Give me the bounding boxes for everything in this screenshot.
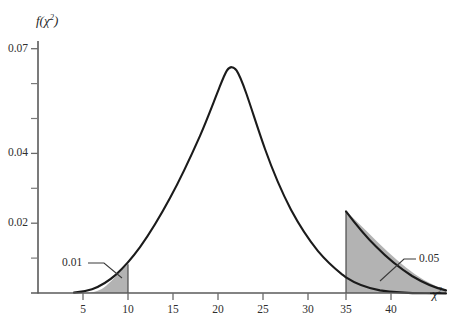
x-tick-label-15: 15 [167,304,179,316]
x-axis-title: χ2 [432,286,442,300]
x-tick-label-30: 30 [302,304,314,316]
y-axis-title-exponent: 2 [50,12,54,22]
chi-square-distribution-plot [0,0,460,326]
x-tick-label-10: 10 [122,304,134,316]
y-axis-title: f(χ2) [36,13,58,27]
y-tick-label-0.04: 0.04 [4,148,28,160]
chart-figure: 0.02 0.04 0.07 5 10 15 20 25 30 35 40 f(… [0,0,460,326]
x-tick-label-20: 20 [212,304,224,316]
x-tick-label-35: 35 [340,304,352,316]
x-tick-label-40: 40 [385,304,397,316]
y-tick-label-0.02: 0.02 [4,217,28,229]
upper-tail-area-label: 0.05 [419,253,439,265]
x-tick-label-25: 25 [257,304,269,316]
y-tick-label-0.07: 0.07 [4,43,28,55]
x-tick-label-5: 5 [80,304,86,316]
lower-tail-area-label: 0.01 [62,257,82,269]
x-axis-title-exponent: 2 [438,285,442,295]
